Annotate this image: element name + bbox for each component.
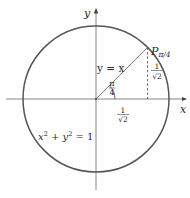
- x-coord-numerator: 1: [121, 106, 126, 115]
- angle-denominator: 4: [109, 88, 114, 97]
- circle-equation: x2 + y2 = 1: [38, 130, 93, 142]
- y-axis-label: y: [83, 7, 91, 20]
- line-label: y = x: [96, 62, 124, 74]
- x-coord-denominator: √2: [118, 115, 128, 124]
- y-coord-numerator: 1: [155, 62, 160, 71]
- origin-point: [95, 98, 97, 100]
- x-axis-label: x: [180, 103, 187, 116]
- angle-numerator: π: [109, 79, 114, 88]
- y-coord-denominator: √2: [152, 72, 162, 81]
- point-label: Pπ/4: [150, 45, 171, 59]
- unit-circle-diagram: y x Pπ/4 y = x π 4 1 √2 1 √2 x2 + y2 = 1: [0, 0, 190, 198]
